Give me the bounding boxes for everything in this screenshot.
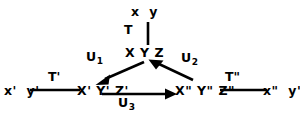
- edge-label-T: T: [124, 24, 133, 37]
- edge-label-U2-subscript: 2: [192, 57, 198, 67]
- edge-label-U3-subscript: 3: [129, 102, 135, 112]
- edge-label-U1-base: U: [86, 49, 96, 64]
- edge-line-U1: [105, 62, 144, 79]
- math-diagram: x y X Y Z x' y' X' Y' Z' X" Y" Z" x" y" …: [0, 0, 300, 124]
- node-label-left-outer: x' y': [4, 85, 40, 98]
- node-label-top: x y: [131, 6, 158, 19]
- edge-label-U2-base: U: [181, 50, 191, 65]
- edge-label-T-double-prime: T": [225, 71, 240, 84]
- edge-line-U2: [159, 64, 193, 80]
- edge-label-U3-base: U: [118, 95, 128, 110]
- node-label-right-inner: X" Y" Z": [175, 85, 235, 98]
- edge-label-U2: U2: [181, 52, 197, 65]
- edge-label-U3: U3: [118, 97, 134, 110]
- edge-label-U1-subscript: 1: [97, 56, 103, 66]
- edge-label-U1: U1: [86, 51, 102, 64]
- edge-label-T-prime: T': [48, 71, 60, 84]
- node-label-right-outer: x" y": [263, 85, 300, 98]
- node-label-center: X Y Z: [125, 47, 164, 60]
